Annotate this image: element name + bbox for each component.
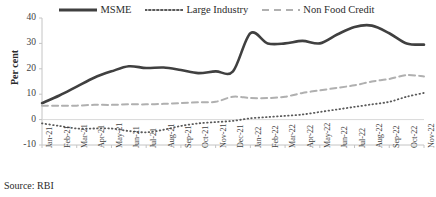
x-tick-label: Oct-22 xyxy=(410,126,419,148)
x-tick-label: Nov-21 xyxy=(219,124,228,148)
y-tick-label: 20 xyxy=(12,63,36,73)
x-tick-label: Jan-21 xyxy=(45,127,54,148)
x-tick-label: Apr-21 xyxy=(97,125,106,148)
x-tick-label: Jan-22 xyxy=(254,127,263,148)
y-tick-label: 10 xyxy=(12,88,36,98)
x-tick-label: Dec-21 xyxy=(236,125,245,149)
x-tick-label: Jun-22 xyxy=(340,126,349,148)
x-tick-label: Feb-21 xyxy=(63,125,72,148)
x-tick-label: Jun-21 xyxy=(132,126,141,148)
x-tick-label: Aug-21 xyxy=(167,124,176,148)
x-tick-label: Aug-22 xyxy=(375,124,384,148)
x-tick-label: Oct-21 xyxy=(201,126,210,148)
x-tick-label: Feb-22 xyxy=(271,125,280,148)
x-tick-label: May-21 xyxy=(115,123,124,148)
y-tick-label: 30 xyxy=(12,37,36,47)
x-tick-label: Apr-22 xyxy=(306,125,315,148)
x-tick-label: Mar-21 xyxy=(80,124,89,148)
x-tick-label: Jul-21 xyxy=(149,128,158,148)
y-tick-label: -10 xyxy=(12,139,36,149)
series-line-non-food-credit xyxy=(42,75,424,106)
x-tick-label: Nov-22 xyxy=(427,124,436,148)
y-tick-label: 40 xyxy=(12,12,36,22)
source-note: Source: RBI xyxy=(4,180,54,191)
x-tick-label: Jul-22 xyxy=(358,128,367,148)
x-tick-label: Mar-22 xyxy=(288,124,297,148)
series-line-msme xyxy=(42,25,424,103)
x-tick-label: Sep-22 xyxy=(392,125,401,148)
x-tick-label: May-22 xyxy=(323,123,332,148)
x-tick-label: Sep-21 xyxy=(184,125,193,148)
y-tick-label: 0 xyxy=(12,114,36,124)
